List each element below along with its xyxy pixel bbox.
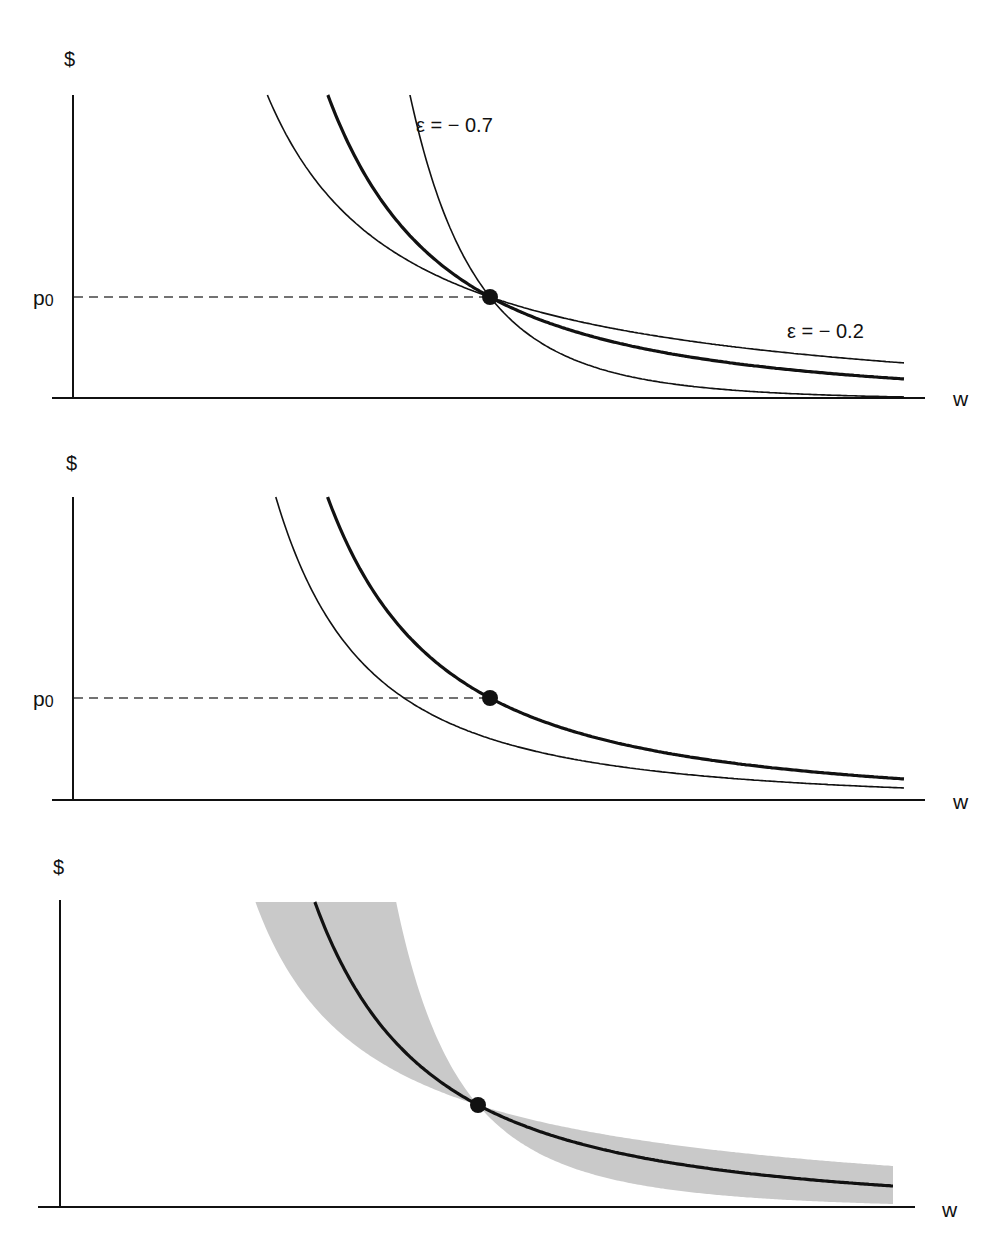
- curve-baseline: [328, 497, 904, 779]
- annotation-eps-0.2: ε = − 0.2: [787, 320, 864, 342]
- curve-shifted: [276, 497, 904, 788]
- y-axis-label: $: [53, 856, 64, 878]
- y-axis-label: $: [64, 48, 75, 70]
- annotation-eps-0.7: ε = − 0.7: [416, 114, 493, 136]
- x-axis-label: w: [941, 1198, 958, 1221]
- equilibrium-point: [470, 1097, 486, 1113]
- panel-middle: $ w p0: [33, 452, 969, 813]
- uncertainty-band: [255, 902, 893, 1204]
- x-axis-label: w: [952, 790, 969, 813]
- price-label: p0: [33, 687, 54, 710]
- panel-top: $ w p0 ε = − 0.7 ε = − 0.2: [33, 48, 969, 410]
- equilibrium-point: [482, 690, 498, 706]
- x-axis-label: w: [952, 387, 969, 410]
- price-label: p0: [33, 286, 54, 309]
- equilibrium-point: [482, 289, 498, 305]
- figure-canvas: $ w p0 ε = − 0.7 ε = − 0.2 $ w p0 $ w: [0, 0, 1008, 1241]
- panel-bottom: $ w: [38, 856, 958, 1221]
- y-axis-label: $: [66, 452, 77, 474]
